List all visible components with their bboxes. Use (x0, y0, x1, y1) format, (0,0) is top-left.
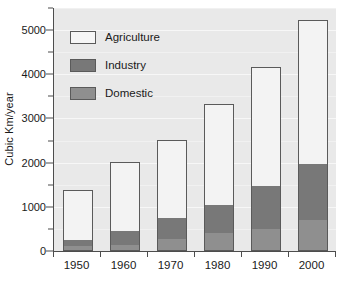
y-axis-tick-labels: 010002000300040005000 (16, 0, 46, 258)
x-axis-tick (241, 252, 242, 257)
x-axis-tick-labels: 195019601970198019902000 (53, 259, 336, 279)
y-axis-tick-major (46, 206, 53, 207)
x-axis-tick (194, 252, 195, 257)
stacked-bar-chart: Cubic Km/year 010002000300040005000 Agri… (0, 0, 343, 282)
x-axis-tick-marks (53, 252, 336, 258)
bar-column[interactable] (298, 8, 328, 251)
x-axis-tick (147, 252, 148, 257)
x-axis-tick-label: 1990 (252, 259, 278, 271)
bar-segment-industry[interactable] (158, 218, 186, 239)
x-axis-tick-label: 1950 (64, 259, 90, 271)
bar-segment-domestic[interactable] (252, 229, 280, 250)
bar-segment-agriculture[interactable] (64, 191, 92, 240)
y-axis-tick-major (46, 118, 53, 119)
bar-segment-agriculture[interactable] (252, 68, 280, 186)
bar-stack[interactable] (110, 162, 140, 251)
bar-segment-industry[interactable] (205, 205, 233, 234)
bar-segment-domestic[interactable] (158, 239, 186, 250)
x-axis-tick (288, 252, 289, 257)
x-axis-tick-label: 1970 (158, 259, 184, 271)
bar-stack[interactable] (204, 104, 234, 251)
legend-label: Domestic (105, 87, 153, 99)
legend-swatch-domestic (70, 87, 96, 100)
bar-segment-industry[interactable] (299, 164, 327, 220)
x-axis-tick (53, 252, 54, 257)
y-axis-title-text: Cubic Km/year (3, 92, 15, 165)
y-axis-tick-major (46, 30, 53, 31)
y-axis-tick-major (46, 162, 53, 163)
bar-segment-industry[interactable] (252, 186, 280, 229)
legend-item-industry[interactable]: Industry (70, 54, 160, 76)
bar-segment-domestic[interactable] (111, 245, 139, 250)
bar-stack[interactable] (157, 140, 187, 251)
bar-segment-agriculture[interactable] (299, 21, 327, 164)
y-axis-tick-major (46, 251, 53, 252)
y-axis-tick-label: 3000 (22, 112, 46, 124)
x-axis-tick-label: 2000 (299, 259, 325, 271)
legend-item-agriculture[interactable]: Agriculture (70, 26, 160, 48)
legend-label: Agriculture (105, 31, 160, 43)
legend-label: Industry (105, 59, 146, 71)
bar-stack[interactable] (63, 190, 93, 251)
y-axis-tick-major (46, 74, 53, 75)
chart-legend: AgricultureIndustryDomestic (70, 26, 160, 110)
bar-column[interactable] (157, 8, 187, 251)
y-axis-tick-label: 1000 (22, 201, 46, 213)
x-axis-tick-label: 1960 (111, 259, 137, 271)
bar-segment-agriculture[interactable] (205, 105, 233, 205)
bar-stack[interactable] (251, 67, 281, 251)
legend-item-domestic[interactable]: Domestic (70, 82, 160, 104)
bar-segment-domestic[interactable] (205, 233, 233, 250)
y-axis-tick-label: 2000 (22, 157, 46, 169)
y-axis-tick-label: 4000 (22, 68, 46, 80)
bar-segment-domestic[interactable] (299, 220, 327, 250)
legend-swatch-agriculture (70, 31, 96, 44)
x-axis-tick (100, 252, 101, 257)
x-axis-tick (335, 252, 336, 257)
y-axis-tick-label: 5000 (22, 24, 46, 36)
bar-stack[interactable] (298, 20, 328, 251)
bar-segment-industry[interactable] (111, 231, 139, 246)
bar-column[interactable] (204, 8, 234, 251)
bar-segment-domestic[interactable] (64, 246, 92, 250)
y-axis-tick-marks (46, 0, 53, 258)
x-axis-tick-label: 1980 (205, 259, 231, 271)
plot-area: AgricultureIndustryDomestic (53, 8, 336, 252)
bar-segment-agriculture[interactable] (111, 163, 139, 231)
bar-segment-agriculture[interactable] (158, 141, 186, 218)
legend-swatch-industry (70, 59, 96, 72)
bar-column[interactable] (251, 8, 281, 251)
